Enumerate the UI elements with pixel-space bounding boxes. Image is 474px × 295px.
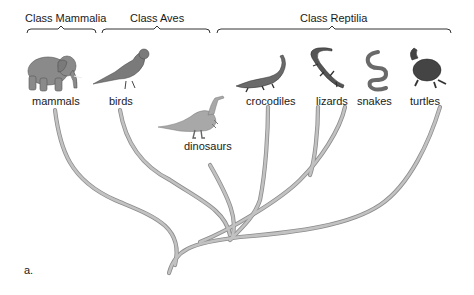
taxon-label-lizards: lizards [316, 95, 348, 107]
turtle-icon [410, 48, 446, 88]
taxon-label-crocodiles: crocodiles [246, 95, 296, 107]
taxon-label-turtles: turtles [410, 95, 440, 107]
class-label-mammalia: Class Mammalia [25, 12, 106, 24]
crocodile-icon [236, 55, 286, 92]
taxon-label-snakes: snakes [357, 95, 392, 107]
taxon-label-birds: birds [109, 95, 133, 107]
animal-illustrations [0, 0, 474, 295]
elephant-icon [28, 56, 82, 91]
class-label-aves: Class Aves [130, 12, 184, 24]
dinosaur-icon [158, 96, 224, 138]
lizard-icon [311, 48, 344, 88]
bird-icon [93, 49, 149, 89]
taxon-label-dinosaurs: dinosaurs [184, 140, 232, 152]
taxon-label-mammals: mammals [32, 95, 80, 107]
class-label-reptilia: Class Reptilia [300, 12, 367, 24]
snake-icon [368, 52, 386, 90]
panel-label: a. [24, 264, 33, 276]
